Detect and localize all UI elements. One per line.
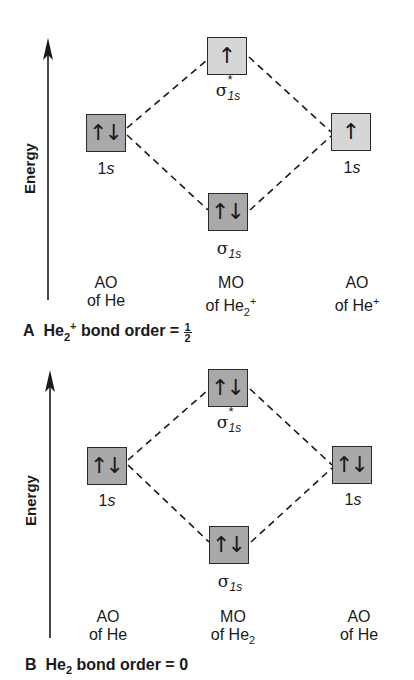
orbital-label-1s-left: 1s (76, 160, 136, 178)
electron-up-icon: ↑ (342, 121, 360, 143)
orbital-label-sigma-star-1s: σ*1s (198, 80, 258, 100)
column-label-mo-center: MO of He2 (178, 608, 288, 649)
electron-pair-icon: ↑↓ (212, 534, 246, 556)
orbital-label-1s-right: 1s (322, 159, 382, 177)
electron-pair-icon: ↑↓ (335, 454, 369, 476)
orbital-label-1s-right: 1s (323, 491, 383, 509)
caption-b-bond-order: B He2 bond order = 0 (25, 656, 188, 676)
electron-pair-icon: ↑↓ (90, 455, 124, 477)
electron-pair-icon: ↑↓ (211, 201, 245, 223)
energy-axis-label: Energy (22, 461, 39, 541)
column-label-ao-right: AO of He (304, 608, 414, 644)
orbital-box-sigma: ↑↓ (208, 193, 248, 231)
orbital-label-sigma-star-1s: σ*1s (199, 412, 259, 432)
orbital-label-sigma-1s: σ1s (199, 238, 259, 258)
column-label-ao-left: AO of He (51, 274, 161, 310)
orbital-box-right-ao: ↑ (331, 113, 371, 151)
orbital-box-right-ao: ↑↓ (332, 446, 372, 484)
orbital-box-sigma: ↑↓ (209, 526, 249, 564)
panel-a-he2-plus-diagram: Energy ↑↓ 1s ↑ σ*1s ↑↓ σ1s ↑ 1s AO of He… (0, 0, 414, 340)
energy-axis-label: Energy (21, 129, 38, 209)
orbital-label-1s-left: 1s (77, 492, 137, 510)
orbital-box-left-ao: ↑↓ (87, 447, 127, 485)
electron-up-icon: ↑ (218, 45, 236, 67)
orbital-box-sigma-star: ↑ (207, 37, 247, 75)
orbital-box-left-ao: ↑↓ (86, 114, 126, 152)
electron-pair-icon: ↑↓ (211, 377, 245, 399)
column-label-ao-left: AO of He (53, 608, 163, 644)
panel-b-he2-diagram: Energy ↑↓ 1s ↑↓ σ*1s ↑↓ σ1s ↑↓ 1s AO of … (0, 332, 414, 680)
electron-pair-icon: ↑↓ (89, 122, 123, 144)
orbital-label-sigma-1s: σ1s (200, 571, 260, 591)
column-label-mo-center: MO of He2+ (176, 274, 286, 321)
orbital-box-sigma-star: ↑↓ (208, 369, 248, 407)
column-label-ao-right: AO of He+ (302, 274, 412, 315)
